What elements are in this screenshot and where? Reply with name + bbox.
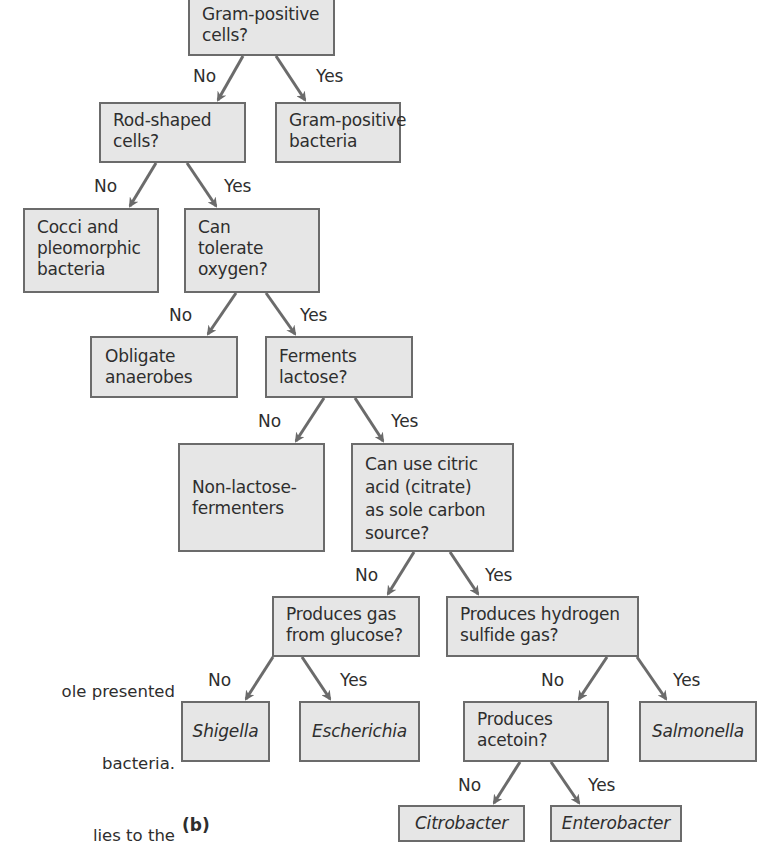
edge-label-yes: Yes (673, 670, 700, 690)
edge-label-yes: Yes (340, 670, 367, 690)
edge-label-yes: Yes (224, 176, 251, 196)
node-escherichia: Escherichia (299, 701, 420, 762)
node-gram-positive-bacteria: Gram-positive bacteria (275, 102, 401, 163)
edge-label-no: No (94, 176, 117, 196)
node-hydrogen-sulfide-question: Produces hydrogen sulfide gas? (446, 596, 639, 657)
node-cocci-pleomorphic: Cocci and pleomorphic bacteria (23, 208, 159, 293)
edge-label-no: No (208, 670, 231, 690)
edge-label-yes: Yes (391, 411, 418, 431)
node-non-lactose-fermenters: Non-lactose- fermenters (178, 443, 325, 552)
edge-label-no: No (541, 670, 564, 690)
node-tolerate-oxygen-question: Can tolerate oxygen? (184, 208, 320, 293)
caption-line: bacteria. (0, 752, 175, 776)
edge-label-no: No (169, 305, 192, 325)
node-citrobacter: Citrobacter (398, 805, 525, 842)
node-gram-positive-question: Gram-positive cells? (188, 0, 335, 56)
edge-label-yes: Yes (588, 775, 615, 795)
panel-label: (b) (182, 815, 210, 835)
edge-label-yes: Yes (485, 565, 512, 585)
node-acetoin-question: Produces acetoin? (463, 701, 609, 762)
node-shigella: Shigella (181, 701, 270, 762)
node-gas-from-glucose-question: Produces gas from glucose? (272, 596, 420, 657)
edge-label-no: No (458, 775, 481, 795)
node-enterobacter: Enterobacter (550, 805, 682, 842)
caption-line: ole presented (0, 680, 175, 704)
caption-line: lies to the (0, 824, 175, 848)
edge-label-no: No (258, 411, 281, 431)
node-obligate-anaerobes: Obligate anaerobes (90, 336, 238, 398)
node-salmonella: Salmonella (639, 701, 757, 762)
node-ferments-lactose-question: Ferments lactose? (265, 336, 413, 398)
node-rod-shaped-question: Rod-shaped cells? (99, 102, 246, 163)
edge-label-yes: Yes (316, 66, 343, 86)
figure-caption-fragment: ole presented bacteria. lies to the ted … (0, 632, 175, 850)
node-citrate-question: Can use citric acid (citrate) as sole ca… (351, 443, 514, 552)
edge-label-yes: Yes (300, 305, 327, 325)
edge-label-no: No (355, 565, 378, 585)
edge-label-no: No (193, 66, 216, 86)
